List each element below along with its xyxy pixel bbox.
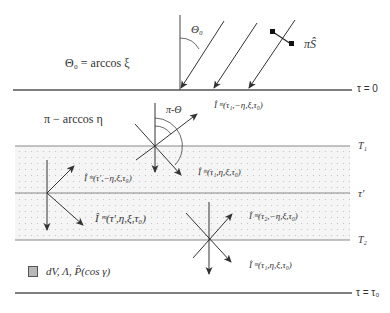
scatter-angle-label: π-Θ xyxy=(166,105,182,115)
scatter-angle-arc-inner xyxy=(155,126,171,134)
sun-ray-2 xyxy=(214,23,257,88)
intensity-tau1-plus-lower-label: Î ᵐ(τ₁,η,ξ,τ₀) xyxy=(249,261,292,270)
boundary-tprime-label: τ′ xyxy=(358,188,364,199)
boundary-bottom-label: τ = τ₀ xyxy=(356,288,379,298)
boundary-t2-label: T₂ xyxy=(358,235,367,245)
intensity-tau2-minus-label: Î ᵐ(τ₂,−η,ξ,τ₀) xyxy=(249,212,298,221)
solar-flux-label: πŜ xyxy=(304,38,316,50)
intensity-tprime-minus-label: Î ᵐ(τ′,−η,ξ,τ₀) xyxy=(84,174,132,183)
polarization-bar xyxy=(273,32,291,44)
boundary-top-label: τ = 0 xyxy=(357,84,378,94)
legend-label: dV, Λ, P̂(cos γ) xyxy=(46,266,110,277)
intensity-tau1-minus-label: Î ᵐ(τ₁,−η,ξ,τ₀) xyxy=(214,101,263,110)
legend-volume-swatch xyxy=(28,266,38,277)
intensity-tau1-plus-upper-label: Î ᵐ(τ₁,η,ξ,τ₀) xyxy=(198,168,241,177)
sun-zenith-equation: Θ₀ = arccos ξ xyxy=(65,57,130,69)
intensity-tprime-plus-label: Î ᵐ(τ′,η,ξ,τ₀) xyxy=(95,213,146,224)
view-angle-equation: π − arccos η xyxy=(44,113,103,125)
boundary-t1-label: T₁ xyxy=(358,141,367,151)
sun-angle-arc xyxy=(180,38,199,49)
lower-down-left xyxy=(193,240,209,258)
sun-angle-label: Θ₀ xyxy=(191,24,203,35)
